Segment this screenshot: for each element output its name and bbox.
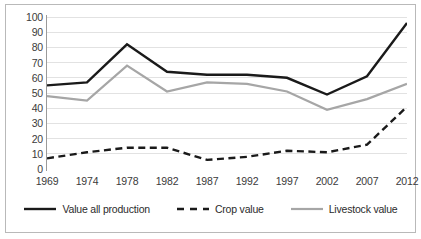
x-axis-tick-label: 1992: [236, 175, 259, 187]
chart-legend: Value all productionCrop valueLivestock …: [6, 203, 415, 215]
solid-line-swatch: [23, 204, 57, 214]
y-axis-tick-label: 100: [26, 11, 43, 23]
chart-frame: 1009080706050403020100 19691974197819821…: [5, 4, 416, 233]
series-line: [47, 66, 407, 110]
y-axis-tick-label: 80: [32, 41, 43, 53]
x-axis-tick-label: 1982: [156, 175, 179, 187]
y-axis-tick-label: 0: [37, 163, 43, 175]
y-axis-tick-label: 20: [32, 133, 43, 145]
chart-container: 1009080706050403020100 19691974197819821…: [0, 0, 421, 239]
series-lines: [47, 23, 407, 160]
legend-label: Crop value: [215, 203, 264, 215]
y-axis-tick-label: 30: [32, 117, 43, 129]
legend-item[interactable]: Livestock value: [290, 203, 398, 215]
y-axis-tick-label: 90: [32, 26, 43, 38]
dashed-line-swatch: [176, 204, 210, 214]
x-axis-tick-label: 2007: [356, 175, 379, 187]
plot-area: [47, 17, 407, 169]
series-line: [47, 107, 407, 160]
x-axis-tick-label: 2002: [316, 175, 339, 187]
gray-solid-line-swatch: [290, 204, 324, 214]
x-axis-tick-label: 1987: [196, 175, 219, 187]
y-axis-tick-label: 50: [32, 87, 43, 99]
gridlines: [47, 17, 407, 169]
legend-item[interactable]: Crop value: [176, 203, 264, 215]
y-axis-tick-label: 70: [32, 57, 43, 69]
legend-label: Livestock value: [329, 203, 398, 215]
legend-label: Value all production: [62, 203, 149, 215]
legend-item[interactable]: Value all production: [23, 203, 149, 215]
x-axis-tick-label: 1997: [276, 175, 299, 187]
y-axis-tick-label: 40: [32, 102, 43, 114]
y-axis-tick-label: 10: [32, 148, 43, 160]
x-axis: 1969197419781982198719921997200220072012: [47, 175, 407, 191]
x-axis-tick-label: 1978: [116, 175, 139, 187]
x-axis-tick-label: 1974: [76, 175, 99, 187]
y-axis-tick-label: 60: [32, 72, 43, 84]
x-axis-tick-label: 2012: [396, 175, 419, 187]
x-axis-tick-label: 1969: [36, 175, 59, 187]
line-chart-svg: [47, 17, 407, 169]
y-axis: 1009080706050403020100: [12, 17, 43, 169]
